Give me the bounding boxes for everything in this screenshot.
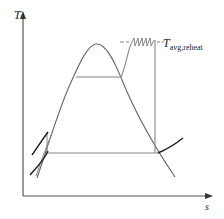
- heavy-isobar-right: [158, 138, 183, 153]
- t-s-diagram: [0, 0, 224, 219]
- compressed-liquid-line: [36, 133, 52, 176]
- saturation-dome: [37, 44, 175, 178]
- reheat-zigzag: [131, 38, 154, 46]
- superheat-curve: [121, 44, 131, 77]
- tavg-subscript: avg,reheat: [170, 43, 203, 52]
- y-axis-label: T: [14, 8, 21, 23]
- tavg-symbol: T: [163, 36, 170, 50]
- x-axis-label: s: [205, 201, 209, 212]
- x-axis-arrow-icon: [205, 193, 213, 199]
- tavg-reheat-label: Tavg,reheat: [163, 36, 203, 52]
